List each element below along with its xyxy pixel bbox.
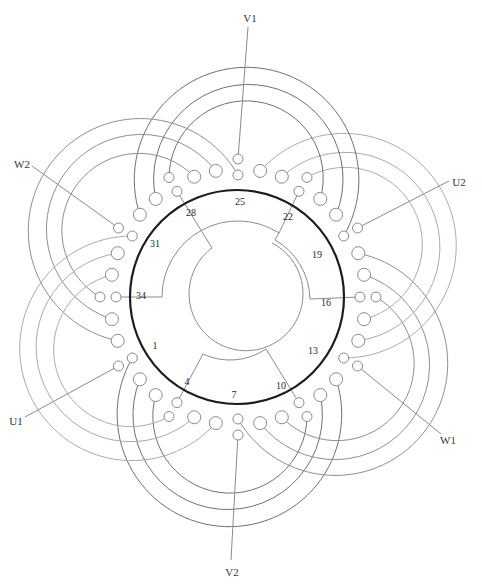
slot-pin-inner xyxy=(233,414,243,424)
slot-pin xyxy=(254,164,267,177)
slot-label-19: 19 xyxy=(312,249,322,260)
terminal-label-u1: U1 xyxy=(9,415,22,427)
slot-label-13: 13 xyxy=(308,345,318,356)
slot-pin-outer xyxy=(164,173,174,183)
slot-pin xyxy=(275,411,288,424)
slot-pin-outer xyxy=(233,154,243,164)
terminal-label-w1: W1 xyxy=(440,434,456,446)
slot-pin xyxy=(188,411,201,424)
slot-label-10: 10 xyxy=(276,380,286,391)
slot-pin xyxy=(209,417,222,430)
slot-pin xyxy=(188,170,201,183)
coil-end-connections xyxy=(20,67,457,526)
lead-v1 xyxy=(238,27,248,159)
slot-pin xyxy=(352,334,365,347)
slot-label-28: 28 xyxy=(186,207,196,218)
slot-pin xyxy=(358,268,371,281)
slot-label-16: 16 xyxy=(321,297,331,308)
slot-pin-outer xyxy=(233,430,243,440)
slot-pin xyxy=(358,313,371,326)
slot-pin xyxy=(149,389,162,402)
slot-pin xyxy=(133,373,146,386)
slot-pin-inner xyxy=(233,170,243,180)
terminal-label-v2: V2 xyxy=(225,566,238,578)
lead-w2 xyxy=(32,166,119,228)
slot-pin-inner xyxy=(127,231,137,241)
slot-pin-inner xyxy=(172,398,182,408)
slot-pin xyxy=(314,192,327,205)
lead-v2 xyxy=(231,435,238,560)
slot-label-4: 4 xyxy=(185,376,190,387)
slot-label-25: 25 xyxy=(235,196,245,207)
slot-pin-outer xyxy=(302,412,312,422)
slot-pin-outer xyxy=(353,223,363,233)
slot-pin-outer xyxy=(114,223,124,233)
slot-pin xyxy=(111,334,124,347)
slot-pin-inner xyxy=(111,292,121,302)
slot-label-1: 1 xyxy=(153,340,158,351)
terminal-leads xyxy=(25,27,449,560)
slot-pin-inner xyxy=(172,186,182,196)
terminal-label-v1: V1 xyxy=(243,12,256,24)
slot-pin-outer xyxy=(114,361,124,371)
slot-pin xyxy=(330,208,343,221)
slot-pin-outer xyxy=(371,292,381,302)
slot-label-22: 22 xyxy=(283,211,293,222)
slot-labels: 25 28 31 34 1 4 7 10 13 16 19 22 xyxy=(136,196,331,400)
slot-pin xyxy=(133,208,146,221)
slot-pin xyxy=(314,389,327,402)
terminal-label-u2: U2 xyxy=(452,176,465,188)
slot-pin xyxy=(352,247,365,260)
slot-pin-inner xyxy=(127,353,137,363)
slot-pin xyxy=(111,247,124,260)
slot-pin-inner xyxy=(294,186,304,196)
slot-pin xyxy=(254,417,267,430)
slot-pin-outer xyxy=(353,361,363,371)
slot-pin xyxy=(105,268,118,281)
lead-u1 xyxy=(25,366,119,417)
slot-pin xyxy=(105,313,118,326)
terminal-label-w2: W2 xyxy=(14,158,30,170)
slot-pin xyxy=(330,373,343,386)
slot-pin-outer xyxy=(95,292,105,302)
slot-pin-inner xyxy=(339,353,349,363)
stator-winding-diagram: 25 28 31 34 1 4 7 10 13 16 19 22 V1 W2 U… xyxy=(0,0,482,585)
slot-pin-inner xyxy=(355,292,365,302)
slot-pin xyxy=(149,192,162,205)
slot-label-7: 7 xyxy=(232,389,237,400)
slot-label-34: 34 xyxy=(136,290,146,301)
band-22-16 xyxy=(275,233,360,299)
slot-pin xyxy=(209,164,222,177)
coil-end-arc xyxy=(28,119,238,341)
slot-pin-outer xyxy=(164,412,174,422)
lead-u2 xyxy=(358,181,450,228)
slot-pin-inner xyxy=(339,231,349,241)
slot-pin-outer xyxy=(302,173,312,183)
coil-end-arc xyxy=(134,67,359,236)
coil-end-arc xyxy=(117,358,342,527)
coil-end-arc xyxy=(282,297,414,441)
coil-end-arc xyxy=(62,153,194,297)
slot-label-31: 31 xyxy=(150,238,160,249)
slot-pin xyxy=(275,170,288,183)
slot-pin-inner xyxy=(294,398,304,408)
